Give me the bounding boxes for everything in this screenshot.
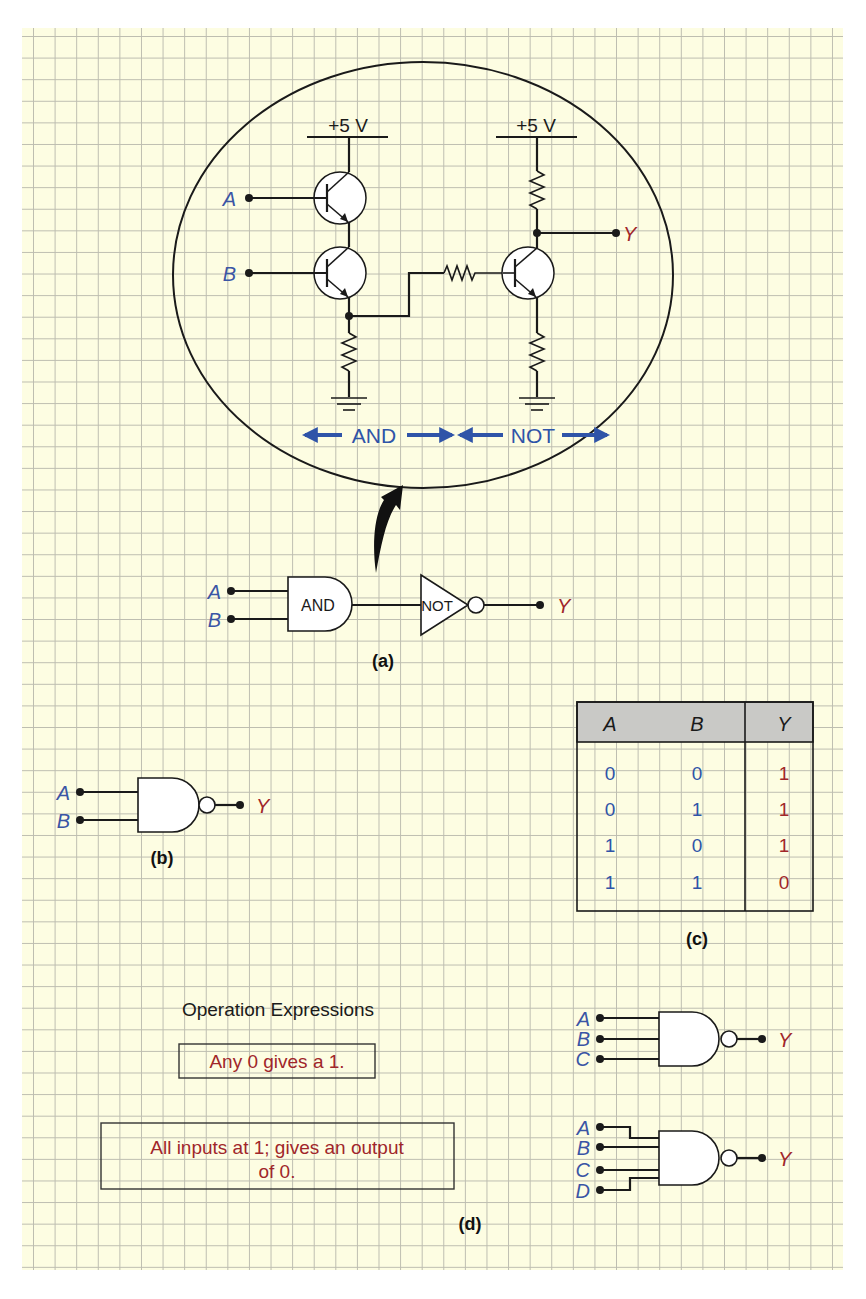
nand-3-input: A B C Y bbox=[576, 1008, 793, 1070]
terminal-dot bbox=[536, 601, 544, 609]
nand4-input-d-label: D bbox=[576, 1180, 590, 1202]
supply-label-left: +5 V bbox=[328, 115, 368, 136]
terminal-dot bbox=[758, 1035, 766, 1043]
nand4-input-c-label: C bbox=[576, 1159, 591, 1181]
panel-a: +5 V +5 V A bbox=[173, 62, 673, 671]
ground-icon bbox=[519, 398, 555, 410]
nand3-input-a-label: A bbox=[576, 1008, 590, 1030]
terminal-dot bbox=[76, 816, 84, 824]
table-cell: 1 bbox=[605, 872, 616, 893]
terminal-dot bbox=[612, 229, 620, 237]
resistor-icon bbox=[530, 171, 544, 209]
terminal-dot bbox=[596, 1166, 604, 1174]
table-cell: 1 bbox=[605, 835, 616, 856]
nand3-output-y-label: Y bbox=[778, 1029, 793, 1051]
and-not-logic: A B AND NOT Y bbox=[207, 575, 572, 635]
resistor-icon bbox=[444, 266, 503, 280]
table-cell: 0 bbox=[605, 799, 616, 820]
terminal-dot bbox=[245, 194, 253, 202]
nand4-input-b-label: B bbox=[577, 1137, 590, 1159]
table-row: 1 0 1 bbox=[605, 835, 790, 856]
section-and-label: AND bbox=[352, 424, 396, 447]
section-not-label: NOT bbox=[511, 424, 556, 447]
terminal-dot bbox=[596, 1186, 604, 1194]
supply-label-right: +5 V bbox=[516, 115, 556, 136]
output-y-label: Y bbox=[623, 223, 638, 245]
wire bbox=[600, 1127, 659, 1138]
table-row: 0 1 1 bbox=[605, 799, 790, 820]
terminal-dot bbox=[245, 269, 253, 277]
terminal-dot bbox=[596, 1014, 604, 1022]
table-row: 0 0 1 bbox=[605, 763, 790, 784]
resistor-icon bbox=[530, 333, 544, 371]
terminal-dot bbox=[758, 1154, 766, 1162]
nand4-input-a-label: A bbox=[576, 1117, 590, 1139]
section-and-arrow: AND bbox=[305, 424, 452, 447]
expression-1: Any 0 gives a 1. bbox=[209, 1051, 344, 1072]
nand-gate-icon bbox=[138, 778, 199, 832]
nand4-output-y-label: Y bbox=[778, 1148, 793, 1170]
table-cell: 1 bbox=[779, 799, 790, 820]
caption-a: (a) bbox=[372, 651, 394, 671]
table-cell: 0 bbox=[779, 872, 790, 893]
transistor-circuit: +5 V +5 V A bbox=[222, 115, 638, 447]
curved-arrow-icon bbox=[374, 485, 403, 573]
table-header-b: B bbox=[690, 713, 703, 735]
nand-4-input: A B C D Y bbox=[576, 1117, 793, 1202]
terminal-dot bbox=[596, 1123, 604, 1131]
wire bbox=[600, 1178, 659, 1190]
and-gate-label: AND bbox=[301, 597, 335, 614]
table-cell: 0 bbox=[692, 835, 703, 856]
nand-output-y-label: Y bbox=[256, 795, 271, 817]
terminal-dot bbox=[227, 615, 235, 623]
inversion-bubble-icon bbox=[721, 1150, 737, 1166]
nand4-gate-icon bbox=[659, 1131, 719, 1185]
caption-b: (b) bbox=[151, 848, 174, 868]
expression-2-line1: All inputs at 1; gives an output bbox=[150, 1137, 404, 1158]
not-gate-label: NOT bbox=[421, 597, 453, 614]
inversion-bubble-icon bbox=[721, 1031, 737, 1047]
nand3-gate-icon bbox=[659, 1012, 719, 1066]
expression-2-line2: of 0. bbox=[259, 1161, 296, 1182]
panel-d: Operation Expressions Any 0 gives a 1. A… bbox=[101, 999, 793, 1234]
section-not-arrow: NOT bbox=[460, 424, 607, 447]
logic-input-b-label: B bbox=[208, 609, 221, 631]
resistor-icon bbox=[342, 333, 356, 371]
terminal-dot bbox=[236, 801, 244, 809]
terminal-dot bbox=[596, 1055, 604, 1063]
terminal-dot bbox=[76, 788, 84, 796]
caption-c: (c) bbox=[686, 929, 708, 949]
table-cell: 0 bbox=[605, 763, 616, 784]
table-cell: 1 bbox=[692, 872, 703, 893]
inversion-bubble-icon bbox=[468, 597, 484, 613]
logic-output-y-label: Y bbox=[557, 595, 572, 617]
nand-input-a-label: A bbox=[56, 782, 70, 804]
table-cell: 1 bbox=[779, 763, 790, 784]
table-cell: 1 bbox=[779, 835, 790, 856]
terminal-dot bbox=[227, 587, 235, 595]
panel-b: A B Y (b) bbox=[56, 778, 271, 868]
nand-input-b-label: B bbox=[57, 810, 70, 832]
table-row: 1 1 0 bbox=[605, 872, 790, 893]
nand3-input-c-label: C bbox=[576, 1048, 591, 1070]
terminal-dot bbox=[596, 1143, 604, 1151]
caption-d: (d) bbox=[459, 1214, 482, 1234]
operation-expressions-title: Operation Expressions bbox=[182, 999, 374, 1020]
panel-c-truth-table: A B Y 0 0 1 0 1 1 1 0 1 1 1 0 (c) bbox=[577, 702, 813, 949]
table-header-y: Y bbox=[777, 713, 792, 735]
table-cell: 1 bbox=[692, 799, 703, 820]
logic-input-a-label: A bbox=[207, 581, 221, 603]
transistor-q3-icon bbox=[502, 247, 554, 299]
nand3-input-b-label: B bbox=[577, 1028, 590, 1050]
input-a-label: A bbox=[222, 188, 236, 210]
inversion-bubble-icon bbox=[199, 797, 215, 813]
table-header-a: A bbox=[602, 713, 616, 735]
ground-icon bbox=[331, 398, 367, 410]
terminal-dot bbox=[596, 1035, 604, 1043]
input-b-label: B bbox=[223, 263, 236, 285]
table-cell: 0 bbox=[692, 763, 703, 784]
